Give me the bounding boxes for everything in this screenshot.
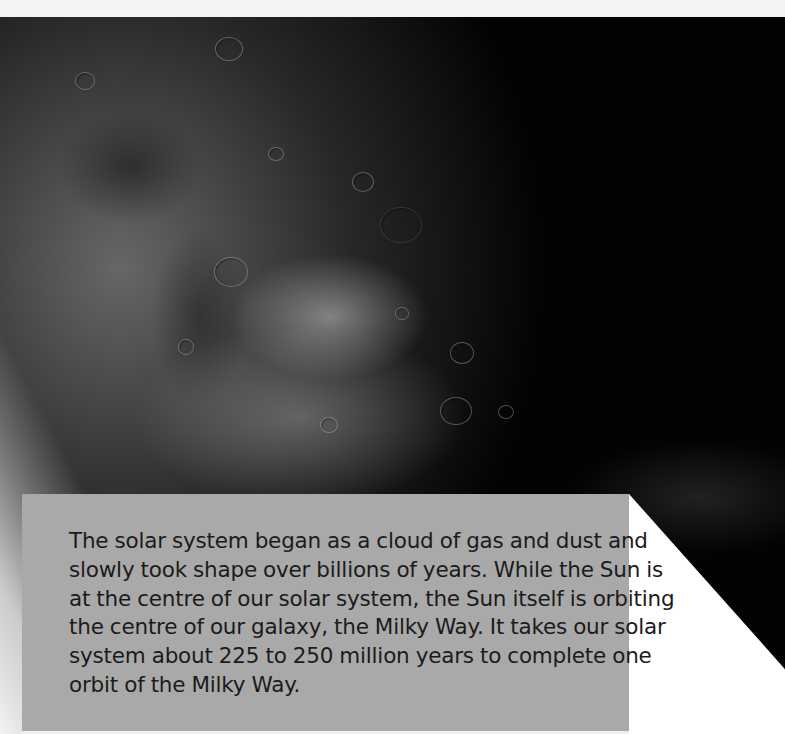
- crater-decoration: [395, 307, 409, 320]
- crater-decoration: [178, 339, 194, 355]
- crater-decoration: [352, 172, 374, 192]
- info-line: system about 225 to 250 million years to…: [69, 642, 609, 671]
- crater-decoration: [498, 405, 514, 419]
- crater-decoration: [214, 257, 248, 287]
- info-line: The solar system began as a cloud of gas…: [69, 527, 609, 556]
- top-margin-strip: [0, 0, 785, 17]
- crater-decoration: [75, 72, 95, 90]
- info-line: slowly took shape over billions of years…: [69, 556, 609, 585]
- info-line: orbit of the Milky Way.: [69, 671, 609, 700]
- info-text-box: The solar system began as a cloud of gas…: [22, 494, 629, 731]
- page: The solar system began as a cloud of gas…: [0, 0, 785, 734]
- info-line: the centre of our galaxy, the Milky Way.…: [69, 613, 609, 642]
- crater-decoration: [215, 37, 243, 61]
- crater-decoration: [268, 147, 284, 161]
- info-paragraph: The solar system began as a cloud of gas…: [69, 527, 609, 700]
- crater-decoration: [450, 342, 474, 364]
- info-line: at the centre of our solar system, the S…: [69, 585, 609, 614]
- crater-decoration: [320, 417, 338, 433]
- crater-decoration: [380, 207, 422, 243]
- crater-decoration: [440, 397, 472, 425]
